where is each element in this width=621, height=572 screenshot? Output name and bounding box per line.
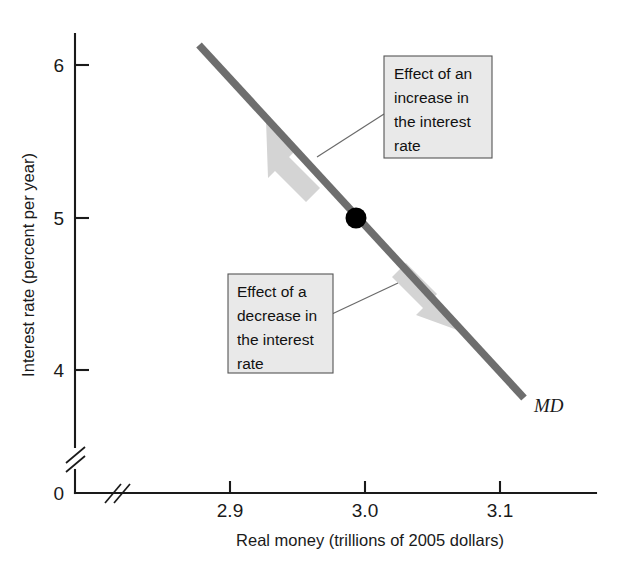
money-demand-chart: 6 5 4 0 2.9 3.0 3.1 Interest rate (perce… bbox=[0, 0, 621, 572]
increase-annotation-line-4: rate bbox=[394, 137, 421, 154]
x-tick-label-3-0: 3.0 bbox=[352, 500, 378, 521]
curve-label-md: MD bbox=[533, 395, 564, 416]
y-tick-group: 6 5 4 0 bbox=[53, 55, 89, 504]
decrease-annotation-box[interactable]: Effect of a decrease in the interest rat… bbox=[228, 274, 333, 373]
y-axis-title: Interest rate (percent per year) bbox=[19, 153, 37, 377]
decrease-annotation-line-2: decrease in bbox=[237, 307, 317, 324]
y-axis-break-icon bbox=[66, 447, 85, 472]
increase-annotation-line-3: the interest bbox=[394, 113, 471, 130]
increase-annotation-box[interactable]: Effect of an increase in the interest ra… bbox=[384, 56, 492, 158]
decrease-annotation-line-1: Effect of a bbox=[237, 283, 307, 300]
increase-movement-arrow bbox=[266, 120, 320, 202]
increase-annotation-line-2: increase in bbox=[394, 89, 469, 106]
x-axis-title: Real money (trillions of 2005 dollars) bbox=[236, 531, 504, 549]
increase-leader-line bbox=[317, 114, 384, 157]
axis-group bbox=[66, 34, 596, 503]
decrease-annotation-line-4: rate bbox=[237, 355, 264, 372]
y-tick-label-4: 4 bbox=[53, 360, 64, 381]
y-tick-label-5: 5 bbox=[53, 208, 64, 229]
increase-annotation-line-1: Effect of an bbox=[394, 65, 472, 82]
x-tick-group: 2.9 3.0 3.1 bbox=[217, 481, 513, 521]
equilibrium-point-marker bbox=[346, 208, 367, 229]
origin-label: 0 bbox=[53, 483, 64, 504]
decrease-annotation-line-3: the interest bbox=[237, 331, 314, 348]
x-tick-label-3-1: 3.1 bbox=[487, 500, 513, 521]
x-tick-label-2-9: 2.9 bbox=[217, 500, 243, 521]
y-tick-label-6: 6 bbox=[53, 55, 64, 76]
decrease-leader-line bbox=[332, 283, 398, 314]
chart-canvas: 6 5 4 0 2.9 3.0 3.1 Interest rate (perce… bbox=[0, 0, 621, 572]
